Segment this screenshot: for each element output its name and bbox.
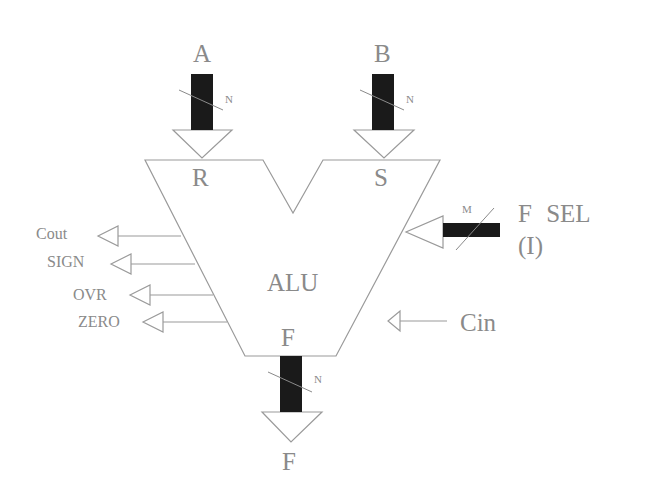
bus-fsel <box>443 223 500 237</box>
ovr-arrow-icon <box>130 285 150 305</box>
cin-label: Cin <box>460 310 496 335</box>
bus-f <box>280 356 302 412</box>
bus-a-width: N <box>225 94 233 105</box>
cout-label: Cout <box>36 226 67 242</box>
cout-arrow-icon <box>98 226 118 246</box>
fsel-sub-label: (I) <box>518 233 543 258</box>
bus-f-width: N <box>314 374 322 385</box>
zero-label: ZERO <box>78 314 120 330</box>
input-b-arrow-icon <box>354 130 414 158</box>
fsel-label: F SEL <box>518 201 591 226</box>
input-b-label: B <box>374 41 391 66</box>
cin-arrow-icon <box>388 311 400 331</box>
sign-label: SIGN <box>47 254 84 270</box>
alu-label: ALU <box>267 270 318 295</box>
input-a-arrow-icon <box>173 130 232 158</box>
port-r-label: R <box>192 165 209 190</box>
bus-a <box>191 74 213 130</box>
bus-b <box>372 74 394 130</box>
bus-fsel-width: M <box>462 204 472 215</box>
fsel-arrow-icon <box>406 216 443 248</box>
output-f-label: F <box>282 449 296 474</box>
alu-diagram <box>0 0 651 500</box>
port-f-label: F <box>281 325 295 350</box>
output-f-arrow-icon <box>262 412 322 442</box>
input-a-label: A <box>193 41 211 66</box>
ovr-label: OVR <box>73 287 107 303</box>
zero-arrow-icon <box>143 312 163 332</box>
port-s-label: S <box>374 165 388 190</box>
bus-b-width: N <box>406 94 414 105</box>
sign-arrow-icon <box>111 254 131 274</box>
